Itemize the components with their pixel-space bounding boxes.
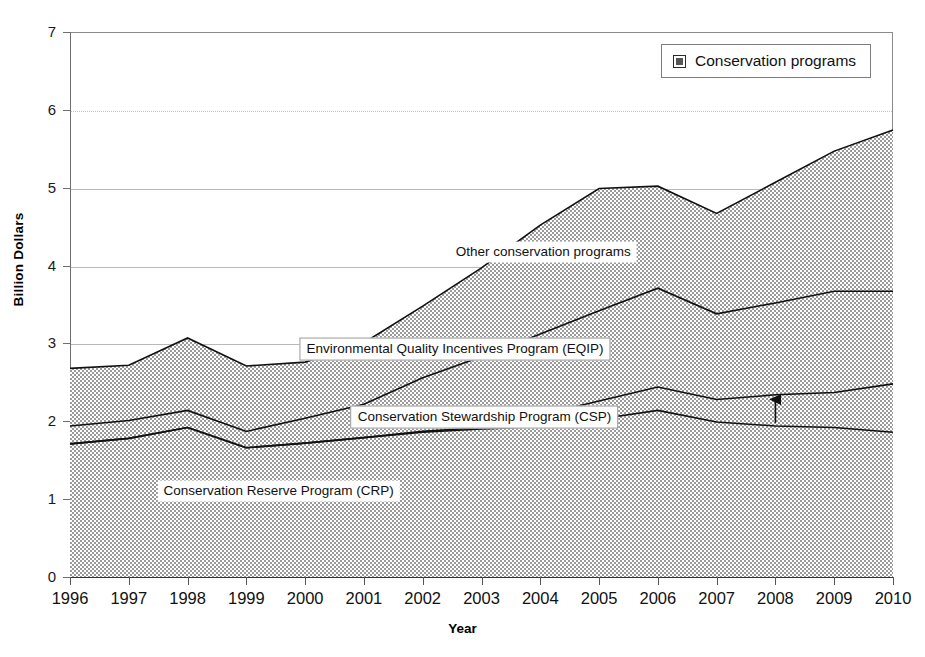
y-tick-1 xyxy=(63,499,70,500)
x-tick-2002 xyxy=(423,577,424,585)
y-tick-6 xyxy=(63,110,70,111)
conservation-programs-area-chart: 01234567 Billion Dollars 199619971998199… xyxy=(0,0,925,657)
x-tick-2000 xyxy=(305,577,306,585)
annotation-other-conservation-programs: Other conservation programs xyxy=(450,242,637,263)
x-tick-2001 xyxy=(364,577,365,585)
legend-swatch-icon xyxy=(673,55,686,68)
y-tick-2 xyxy=(63,421,70,422)
annotation-eqip: Environmental Quality Incentives Program… xyxy=(299,337,610,360)
series-layer xyxy=(0,0,925,657)
y-tick-0 xyxy=(63,577,70,578)
x-tick-2003 xyxy=(482,577,483,585)
x-tick-label-2010: 2010 xyxy=(858,589,925,608)
legend: Conservation programs xyxy=(661,44,871,78)
x-tick-1999 xyxy=(246,577,247,585)
x-tick-2010 xyxy=(893,577,894,585)
x-tick-2004 xyxy=(540,577,541,585)
x-axis-title: Year xyxy=(0,621,925,636)
x-tick-1996 xyxy=(70,577,71,585)
x-tick-2006 xyxy=(658,577,659,585)
y-tick-3 xyxy=(63,343,70,344)
annotation-csp: Conservation Stewardship Program (CSP) xyxy=(351,406,619,429)
x-tick-1998 xyxy=(188,577,189,585)
x-tick-2005 xyxy=(599,577,600,585)
x-tick-2008 xyxy=(775,577,776,585)
y-tick-4 xyxy=(63,266,70,267)
x-tick-2009 xyxy=(834,577,835,585)
legend-item-label: Conservation programs xyxy=(695,52,856,70)
x-tick-2007 xyxy=(717,577,718,585)
x-tick-1997 xyxy=(129,577,130,585)
y-tick-5 xyxy=(63,188,70,189)
y-tick-7 xyxy=(63,32,70,33)
annotation-crp: Conservation Reserve Program (CRP) xyxy=(158,481,400,502)
